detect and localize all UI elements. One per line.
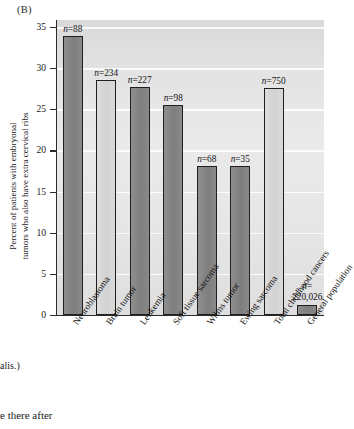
- y-tick-10: [50, 233, 56, 234]
- y-tick-15: [50, 192, 56, 193]
- y-tick-30: [50, 68, 56, 69]
- bar-leukemia: [130, 87, 150, 315]
- body-text-fragment: e there after: [0, 409, 53, 421]
- y-axis-title-line-1: Percent of patients with embryonal: [8, 52, 20, 320]
- bar-neuroblastoma: [63, 36, 83, 315]
- y-tick-0: [50, 315, 56, 316]
- y-tick-label-0: 0: [26, 309, 46, 320]
- y-tick-25: [50, 109, 56, 110]
- y-tick-5: [50, 274, 56, 275]
- y-tick-label-10: 10: [26, 227, 46, 238]
- y-tick-20: [50, 150, 56, 151]
- y-tick-label-25: 25: [26, 103, 46, 114]
- y-tick-label-15: 15: [26, 186, 46, 197]
- bar-annotation-soft-tissue-sarcoma: n=98: [150, 93, 196, 103]
- y-tick-label-35: 35: [26, 21, 46, 32]
- y-tick-label-30: 30: [26, 62, 46, 73]
- bar-soft-tissue-sarcoma: [163, 105, 183, 315]
- y-tick-label-20: 20: [26, 144, 46, 155]
- panel-label: (B): [17, 4, 32, 15]
- y-tick-label-5: 5: [26, 268, 46, 279]
- bar-annotation-total-childhood-cancers: n=750: [251, 76, 297, 86]
- bar-annotation-leukemia: n=227: [117, 75, 163, 85]
- bar-annotation-ewing-sarcoma: n=35: [217, 154, 263, 164]
- gridline-35: [57, 27, 324, 29]
- bar-annotation-neuroblastoma: n=88: [50, 24, 96, 34]
- caption-fragment: alis.): [0, 360, 20, 371]
